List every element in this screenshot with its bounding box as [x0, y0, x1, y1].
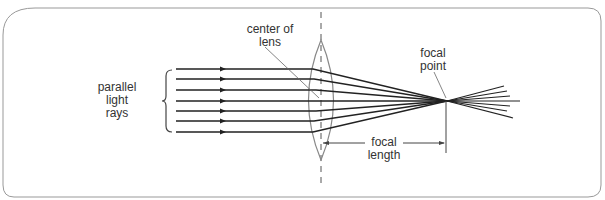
focal-point-label: focal point [403, 47, 463, 73]
brace [162, 70, 172, 132]
label-line: lens [235, 36, 305, 49]
label-line: length [356, 149, 412, 162]
label-line: rays [82, 107, 152, 120]
center-of-lens-label: center of lens [235, 23, 305, 49]
parallel-rays-label: parallel light rays [82, 81, 152, 120]
label-line: point [403, 60, 463, 73]
lens-diagram: parallel light rays center of lens focal… [0, 0, 605, 200]
focal-length-label: focal length [356, 136, 412, 162]
focal-point-leader [434, 72, 446, 98]
outgoing-rays [447, 86, 520, 118]
incoming-rays [176, 69, 447, 132]
